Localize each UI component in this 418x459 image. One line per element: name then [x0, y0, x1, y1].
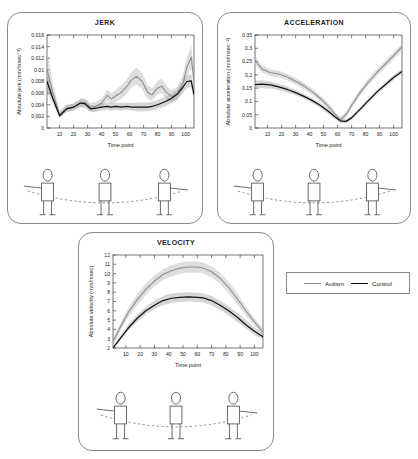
svg-text:Absolute jerk (mm/msec⁻³): Absolute jerk (mm/msec⁻³) — [16, 48, 22, 115]
svg-text:70: 70 — [141, 131, 147, 137]
stick-figures-velocity — [79, 385, 273, 447]
svg-text:6: 6 — [107, 308, 110, 314]
svg-text:50: 50 — [113, 131, 119, 137]
plot-acceleration: 00.050.10.150.20.250.30.3510203040506070… — [226, 30, 406, 158]
legend-label-control: Control — [372, 280, 392, 287]
svg-text:5: 5 — [107, 317, 110, 323]
svg-text:80: 80 — [223, 351, 229, 357]
svg-text:0.2: 0.2 — [245, 72, 252, 78]
svg-text:30: 30 — [293, 131, 299, 137]
svg-text:0.006: 0.006 — [31, 90, 44, 96]
person-figure-icon — [156, 169, 188, 215]
svg-text:3: 3 — [107, 336, 110, 342]
legend-item-autism: Autism — [304, 280, 344, 287]
person-figure-icon — [97, 169, 113, 215]
svg-text:20: 20 — [137, 351, 143, 357]
svg-text:50: 50 — [180, 351, 186, 357]
svg-text:0.01: 0.01 — [34, 67, 44, 73]
svg-text:50: 50 — [321, 131, 327, 137]
svg-text:30: 30 — [85, 131, 91, 137]
svg-text:90: 90 — [237, 351, 243, 357]
legend-swatch-autism-icon — [304, 283, 321, 284]
svg-text:9: 9 — [107, 280, 110, 286]
svg-text:4: 4 — [107, 326, 110, 332]
panel-jerk: JERK 00.0020.0040.0060.0080.010.0120.014… — [7, 12, 203, 224]
svg-text:40: 40 — [99, 131, 105, 137]
svg-text:40: 40 — [307, 131, 313, 137]
svg-text:0.1: 0.1 — [245, 98, 252, 104]
legend: Autism Control — [286, 272, 410, 294]
svg-text:0.002: 0.002 — [31, 113, 44, 119]
svg-text:40: 40 — [166, 351, 172, 357]
stick-figures-jerk — [8, 163, 202, 221]
legend-label-autism: Autism — [325, 280, 344, 287]
person-figure-icon — [225, 392, 257, 439]
legend-item-control: Control — [351, 280, 392, 287]
svg-text:8: 8 — [107, 289, 110, 295]
svg-text:60: 60 — [335, 131, 341, 137]
svg-text:12: 12 — [104, 252, 110, 258]
svg-text:0.25: 0.25 — [242, 58, 252, 64]
legend-swatch-control-icon — [351, 283, 368, 284]
chart-velocity: 23456789101112102030405060708090100Time … — [89, 250, 269, 380]
svg-text:0.05: 0.05 — [242, 112, 252, 118]
svg-text:90: 90 — [169, 131, 175, 137]
svg-text:Time point: Time point — [175, 362, 201, 368]
svg-text:0.35: 0.35 — [242, 32, 252, 38]
svg-text:70: 70 — [349, 131, 355, 137]
svg-text:0.016: 0.016 — [31, 32, 44, 38]
plot-velocity: 23456789101112102030405060708090100Time … — [89, 250, 269, 380]
svg-text:Time point: Time point — [108, 142, 134, 148]
chart-acceleration: 00.050.10.150.20.250.30.3510203040506070… — [226, 30, 406, 158]
svg-text:10: 10 — [265, 131, 271, 137]
svg-text:0.008: 0.008 — [31, 78, 44, 84]
svg-text:Absolute velocity (mm/msec): Absolute velocity (mm/msec) — [88, 266, 94, 338]
svg-text:100: 100 — [389, 131, 398, 137]
person-figure-icon — [306, 169, 322, 215]
panel-acceleration: ACCELERATION 00.050.10.150.20.250.30.351… — [217, 12, 411, 224]
panel-velocity: VELOCITY 2345678910111210203040506070809… — [78, 232, 274, 451]
person-figure-icon — [168, 392, 184, 439]
svg-text:0.014: 0.014 — [31, 44, 44, 50]
svg-text:0.3: 0.3 — [245, 45, 252, 51]
svg-text:20: 20 — [71, 131, 77, 137]
svg-text:0.012: 0.012 — [31, 55, 44, 61]
svg-text:11: 11 — [105, 261, 110, 267]
svg-text:100: 100 — [181, 131, 190, 137]
person-figure-icon — [234, 169, 266, 215]
svg-text:30: 30 — [152, 351, 158, 357]
svg-text:10: 10 — [104, 271, 110, 277]
illustration-velocity — [79, 385, 273, 447]
svg-text:70: 70 — [209, 351, 215, 357]
panel-title-velocity: VELOCITY — [79, 239, 273, 246]
svg-text:10: 10 — [57, 131, 63, 137]
chart-jerk: 00.0020.0040.0060.0080.010.0120.0140.016… — [16, 30, 198, 158]
svg-text:10: 10 — [123, 351, 129, 357]
plot-jerk: 00.0020.0040.0060.0080.010.0120.0140.016… — [16, 30, 198, 158]
panel-title-jerk: JERK — [8, 19, 202, 26]
figure-kinematics-panels: JERK 00.0020.0040.0060.0080.010.0120.014… — [0, 0, 418, 459]
svg-text:60: 60 — [127, 131, 133, 137]
person-figure-icon — [364, 169, 396, 215]
panel-title-acceleration: ACCELERATION — [218, 19, 410, 26]
svg-text:90: 90 — [377, 131, 383, 137]
svg-text:80: 80 — [155, 131, 161, 137]
svg-text:0.15: 0.15 — [242, 85, 252, 91]
svg-text:7: 7 — [107, 298, 110, 304]
svg-text:20: 20 — [279, 131, 285, 137]
svg-text:100: 100 — [250, 351, 259, 357]
illustration-jerk — [8, 163, 202, 221]
svg-text:Absolute acceleration (mm/msec: Absolute acceleration (mm/msec⁻²) — [225, 37, 231, 125]
svg-text:0.004: 0.004 — [31, 102, 44, 108]
stick-figures-acceleration — [218, 163, 410, 221]
svg-text:0: 0 — [249, 125, 252, 131]
svg-text:2: 2 — [107, 345, 110, 351]
svg-text:0: 0 — [41, 125, 44, 131]
svg-text:80: 80 — [363, 131, 369, 137]
person-figure-icon — [24, 169, 56, 215]
illustration-acceleration — [218, 163, 410, 221]
svg-text:Time point: Time point — [316, 142, 342, 148]
svg-text:60: 60 — [194, 351, 200, 357]
